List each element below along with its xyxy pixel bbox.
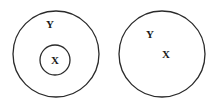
venn-diagram-figure: Y X Y X [0,0,216,99]
diagram-same-set: Y X [119,11,205,97]
label-x: X [162,48,170,60]
label-y: Y [146,28,154,40]
label-x: X [51,54,59,66]
diagram-nested-sets: Y X [13,11,99,97]
label-y: Y [46,18,54,30]
